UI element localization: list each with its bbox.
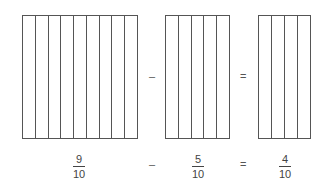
operator-equals-top: = [240, 70, 246, 82]
numerator: 9 [76, 154, 82, 165]
denominator: 10 [73, 169, 85, 180]
bar-subtrahend [165, 15, 230, 139]
bar-part [112, 16, 125, 138]
bar-part [204, 16, 217, 138]
bar-part [74, 16, 87, 138]
bar-part [36, 16, 49, 138]
fraction-bar [279, 166, 291, 167]
fraction-minuend: 9 10 [73, 154, 85, 180]
bar-part [166, 16, 179, 138]
bar-part [125, 16, 137, 138]
bar-part [285, 16, 298, 138]
fraction-subtrahend: 5 10 [192, 154, 204, 180]
bar-difference [258, 15, 311, 139]
fraction-bar [73, 166, 85, 167]
bar-part [100, 16, 113, 138]
operator-minus-top: – [149, 70, 155, 82]
bar-part [49, 16, 62, 138]
fraction-bar [192, 166, 204, 167]
bar-part [259, 16, 272, 138]
bar-part [23, 16, 36, 138]
bar-part [179, 16, 192, 138]
denominator: 10 [279, 169, 291, 180]
bar-part [61, 16, 74, 138]
fraction-difference: 4 10 [279, 154, 291, 180]
bar-minuend [22, 15, 138, 139]
bar-part [272, 16, 285, 138]
denominator: 10 [192, 169, 204, 180]
bar-part [217, 16, 229, 138]
operator-minus-bottom: – [149, 158, 155, 170]
bar-part [192, 16, 205, 138]
bar-part [298, 16, 310, 138]
numerator: 4 [282, 154, 288, 165]
operator-equals-bottom: = [240, 158, 246, 170]
bar-part [87, 16, 100, 138]
numerator: 5 [195, 154, 201, 165]
